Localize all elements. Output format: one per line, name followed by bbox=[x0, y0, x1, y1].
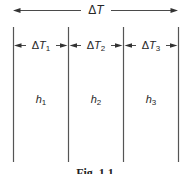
dt1-label: ΔT1 bbox=[26, 39, 56, 53]
h3-label: h3 bbox=[141, 94, 161, 107]
composite-layer-diagram: ΔT ΔT1 ΔT2 ΔT3 h1 h2 h3 Fig. 1.1 bbox=[0, 0, 190, 174]
delta-symbol: Δ bbox=[87, 39, 94, 51]
total-dt-label: ΔT bbox=[81, 4, 111, 16]
h2-label: h2 bbox=[86, 94, 106, 107]
delta-symbol: Δ bbox=[142, 39, 149, 51]
figure-caption: Fig. 1.1 bbox=[0, 166, 190, 174]
temperature-symbol: T bbox=[39, 39, 46, 51]
subscript: 2 bbox=[101, 44, 105, 53]
h1-label: h1 bbox=[31, 94, 51, 107]
temperature-symbol: T bbox=[149, 39, 156, 51]
subscript: 1 bbox=[42, 98, 46, 107]
subscript: 1 bbox=[46, 44, 50, 53]
temperature-symbol: T bbox=[94, 39, 101, 51]
diagram-artwork bbox=[0, 0, 190, 174]
delta-symbol: Δ bbox=[32, 39, 39, 51]
subscript: 3 bbox=[152, 98, 156, 107]
subscript: 2 bbox=[97, 98, 101, 107]
dt2-label: ΔT2 bbox=[81, 39, 111, 53]
temperature-symbol: T bbox=[96, 3, 103, 17]
dt3-label: ΔT3 bbox=[136, 39, 166, 53]
subscript: 3 bbox=[156, 44, 160, 53]
